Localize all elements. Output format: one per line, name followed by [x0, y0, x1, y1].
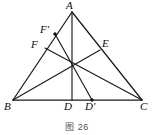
- figure-caption: 图 26: [0, 120, 154, 133]
- cevian-lines: [13, 12, 142, 100]
- vertex-label-D: D: [64, 101, 72, 112]
- point-marker-Fprime: [53, 32, 56, 35]
- cevian-BE-line: [13, 50, 100, 100]
- vertex-label-F: F: [31, 39, 38, 50]
- vertex-label-A: A: [66, 0, 73, 11]
- cevian-CF-line: [45, 48, 142, 100]
- side-AC-line: [72, 12, 142, 100]
- vertex-label-E: E: [102, 38, 109, 49]
- triangle-sides: [13, 12, 142, 100]
- figure-canvas: [0, 0, 154, 135]
- vertex-label-D-prime: D': [85, 101, 95, 112]
- vertex-label-F-prime: F': [40, 24, 49, 35]
- vertex-label-B: B: [4, 101, 11, 112]
- segment-Fprime-Dprime-line: [55, 34, 92, 100]
- geometry-figure: A B C D D' E F F' 图 26: [0, 0, 154, 135]
- vertex-label-C: C: [140, 101, 147, 112]
